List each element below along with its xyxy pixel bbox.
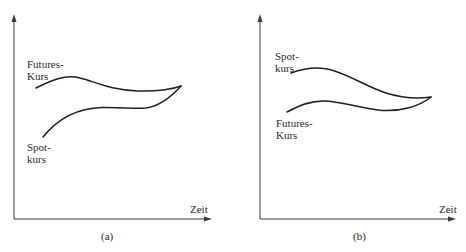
panel-a: Futures- Kurs Spot- kurs Zeit (a) bbox=[12, 14, 213, 243]
caption-b: (b) bbox=[353, 230, 366, 243]
futures-label-line2-a: Kurs bbox=[27, 70, 48, 82]
x-axis-label-a: Zeit bbox=[190, 203, 208, 215]
futures-curve-b bbox=[287, 97, 431, 112]
x-axis-label-b: Zeit bbox=[439, 203, 457, 215]
spot-label-line2-b: kurs bbox=[275, 62, 294, 74]
spot-label-line1-b: Spot- bbox=[275, 50, 299, 62]
spot-label-line1-a: Spot- bbox=[27, 141, 51, 153]
x-axis-arrow-icon bbox=[448, 217, 456, 222]
futures-label-line1-b: Futures- bbox=[276, 117, 313, 129]
spot-curve-a bbox=[43, 86, 181, 137]
panel-b: Spot- kurs Futures- Kurs Zeit (b) bbox=[258, 14, 457, 243]
y-axis-arrow-icon bbox=[12, 14, 17, 22]
futures-label-line1-a: Futures- bbox=[27, 58, 64, 70]
caption-a: (a) bbox=[101, 230, 114, 243]
futures-curve-a bbox=[36, 77, 181, 91]
x-axis-arrow-icon bbox=[204, 217, 212, 222]
futures-label-line2-b: Kurs bbox=[276, 129, 297, 141]
y-axis-arrow-icon bbox=[258, 14, 263, 22]
convergence-diagram: Futures- Kurs Spot- kurs Zeit (a) Spot- … bbox=[0, 0, 466, 252]
spot-curve-b bbox=[291, 68, 431, 98]
spot-label-line2-a: kurs bbox=[27, 153, 46, 165]
